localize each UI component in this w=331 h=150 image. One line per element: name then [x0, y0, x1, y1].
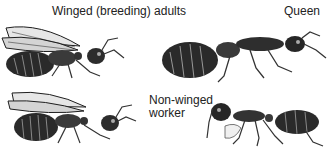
worker-label-line2: worker: [149, 107, 185, 120]
winged-adults-label: Winged (breeding) adults: [52, 5, 186, 18]
winged-ant-bottom-icon: [0, 85, 140, 147]
worker-ant-icon: [205, 98, 331, 148]
winged-ant-top-icon: [0, 18, 140, 80]
queen-ant-icon: [160, 22, 331, 86]
queen-label: Queen: [284, 5, 320, 18]
ant-castes-illustration: Winged (breeding) adults Queen Non-winge…: [0, 0, 331, 150]
